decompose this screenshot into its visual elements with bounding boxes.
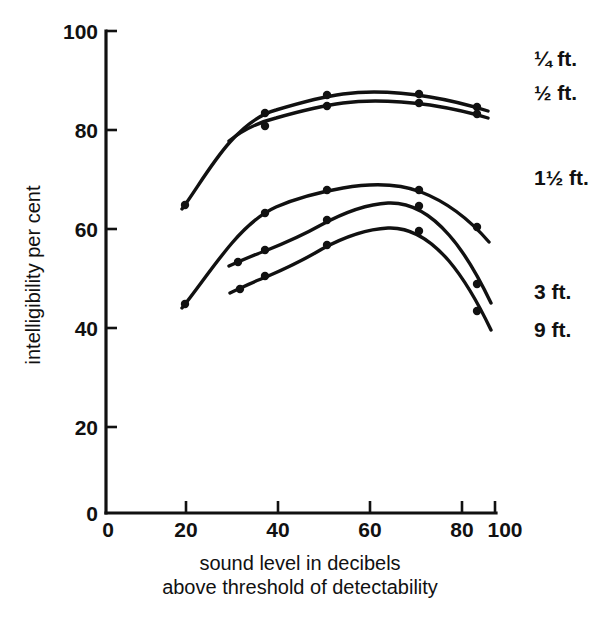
data-point [323,91,331,99]
data-point [415,90,423,98]
x-tick-label-40: 40 [266,518,289,541]
data-point [261,109,269,117]
data-point [473,280,481,288]
series-label-nine-ft: 9 ft. [534,318,571,341]
data-point [234,258,242,266]
chart-figure: 100 80 60 40 20 0 0 20 40 60 80 100 soun… [0,0,613,620]
data-point [415,227,423,235]
series-label-one-and-half-ft: 1½ ft. [534,166,589,189]
series-labels: ¼ ft. ½ ft. 1½ ft. 3 ft. 9 ft. [534,47,589,341]
data-point [261,272,269,280]
curve-nine-ft [230,228,491,330]
data-point [323,186,331,194]
data-point [323,241,331,249]
x-tick-label-80: 80 [450,518,473,541]
curve-three-ft [229,203,491,303]
y-tick-label-20: 20 [75,416,98,439]
data-point [473,110,481,118]
x-axis-title-line1: sound level in decibels [199,552,400,574]
data-point [415,186,423,194]
y-tick-label-40: 40 [75,317,98,340]
data-point [236,285,244,293]
markers-nine-ft [236,227,481,315]
data-point [323,216,331,224]
data-point [181,300,189,308]
data-point [473,307,481,315]
y-tick-label-100: 100 [63,20,98,43]
data-point [261,209,269,217]
y-tick-label-0: 0 [86,502,98,525]
y-axis-tick-labels: 100 80 60 40 20 0 [63,20,98,525]
series-label-half-ft: ½ ft. [534,81,577,104]
curve-one-and-half-ft [182,185,489,308]
x-tick-label-100: 100 [487,518,522,541]
data-point [415,99,423,107]
x-tick-label-60: 60 [358,518,381,541]
data-point [473,223,481,231]
curve-quarter-ft [182,92,488,209]
series-curves [182,92,491,330]
x-tick-label-20: 20 [174,518,197,541]
x-axis-ticks [186,501,495,513]
x-tick-label-0: 0 [102,518,114,541]
data-point [323,102,331,110]
series-label-quarter-ft: ¼ ft. [534,47,577,70]
series-label-three-ft: 3 ft. [534,280,571,303]
y-axis-ticks [106,31,117,427]
data-point [415,202,423,210]
y-axis-title: intelligibility per cent [22,185,44,364]
x-axis-tick-labels: 0 20 40 60 80 100 [102,518,522,541]
data-point [261,122,269,130]
data-point [261,246,269,254]
data-point [181,201,189,209]
y-tick-label-80: 80 [75,119,98,142]
y-tick-label-60: 60 [75,218,98,241]
intelligibility-line-chart: 100 80 60 40 20 0 0 20 40 60 80 100 soun… [0,0,613,620]
curve-half-ft [229,101,488,141]
x-axis-title-line2: above threshold of detectability [162,576,438,598]
